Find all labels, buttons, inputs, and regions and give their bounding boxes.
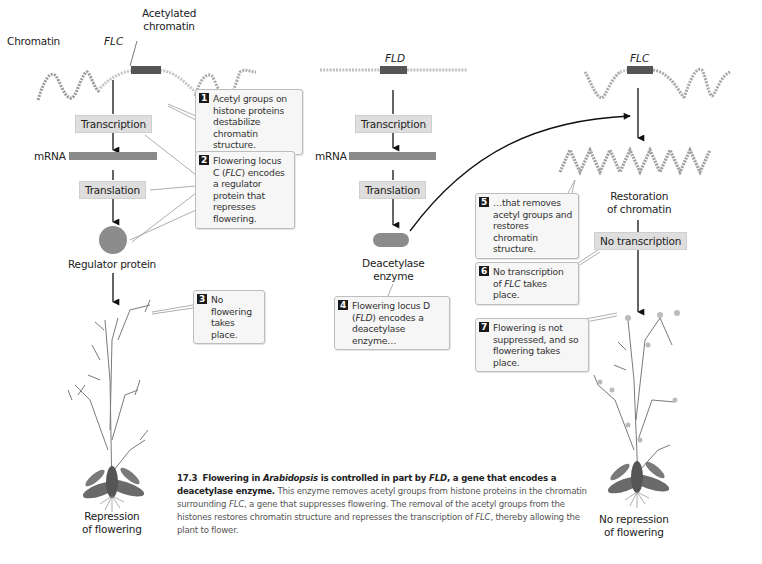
callout-number-badge: 4 [338, 300, 348, 310]
regulator-protein-shape [99, 226, 127, 254]
mrna-bar-middle [349, 152, 436, 160]
callout-number-badge: 3 [197, 294, 207, 304]
deacetylase-enzyme-shape [373, 233, 409, 247]
callout-1: 1 Acetyl groups on histone proteins dest… [195, 89, 303, 155]
mrna-label-left: mRNA [34, 150, 66, 162]
callout-number-badge: 2 [199, 155, 209, 165]
fld-gene-label: FLD [385, 52, 405, 64]
callout-5: 5 …that removes acetyl groups and restor… [475, 193, 579, 259]
acetylated-pointer [130, 41, 137, 66]
callout-leaders-left [130, 104, 196, 314]
plant-right-flowers [598, 310, 681, 443]
fld-gene-segment [380, 66, 407, 74]
restoration-of-chromatin-label: Restoration of chromatin [607, 190, 671, 216]
plant-right-rosette [606, 459, 671, 497]
figure-caption: 17.3 Flowering in Arabidopsis is control… [177, 472, 597, 537]
chromatin-right-restored [560, 150, 710, 172]
flc-gene-segment-right [627, 66, 653, 74]
chromatin-label: Chromatin [7, 35, 60, 47]
callout-number-badge: 1 [199, 93, 209, 103]
step-translation-left: Translation [79, 181, 146, 199]
flc-gene-label-right: FLC [630, 52, 649, 64]
flc-gene-label-left: FLC [104, 35, 123, 47]
step-translation-middle: Translation [359, 181, 426, 199]
deacetylase-enzyme-label: Deacetylase enzyme [362, 257, 425, 283]
callout-number-badge: 7 [479, 322, 489, 332]
callout-3: 3 No flowering takes place. [193, 290, 265, 344]
flc-gene-segment-left [131, 66, 161, 74]
regulator-protein-label: Regulator protein [68, 258, 156, 270]
callout-number-badge: 6 [479, 266, 489, 276]
plant-right-illustration [594, 318, 675, 480]
plant-left-illustration [68, 300, 150, 495]
chromatin-right-top [585, 69, 730, 98]
plant-left-rosette [81, 465, 146, 502]
callout-leader [388, 284, 393, 296]
callout-number-badge: 5 [479, 197, 489, 207]
callout-2: 2 Flowering locus C (FLC) encodes a regu… [195, 151, 295, 229]
step-transcription-middle: Transcription [355, 115, 432, 133]
step-transcription-left: Transcription [75, 115, 152, 133]
plant-right-roots [625, 492, 649, 508]
callout-6: 6 No transcription of FLC takes place. [475, 262, 579, 305]
mrna-label-middle: mRNA [315, 150, 347, 162]
acetylated-chromatin-label: Acetylated chromatin [142, 7, 196, 33]
caption-figure-number: 17.3 [177, 473, 197, 483]
repression-of-flowering-label: Repression of flowering [82, 510, 142, 536]
no-repression-of-flowering-label: No repression of flowering [599, 513, 669, 539]
step-no-transcription: No transcription [594, 232, 687, 250]
callout-4: 4 Flowering locus D (FLD) encodes a deac… [334, 296, 450, 350]
mrna-bar-left [69, 152, 157, 160]
callout-7: 7 Flowering is not suppressed, and so fl… [475, 318, 589, 372]
